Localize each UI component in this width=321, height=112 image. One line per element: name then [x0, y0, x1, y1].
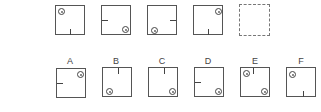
- sequence-panel-2: [101, 5, 131, 35]
- option-label-f: F: [286, 56, 316, 66]
- option-f[interactable]: [286, 67, 316, 97]
- option-e[interactable]: [240, 67, 270, 97]
- circle-icon: [122, 26, 129, 33]
- circle-icon: [58, 8, 65, 15]
- tick-mark: [57, 83, 63, 84]
- option-c[interactable]: [148, 67, 178, 97]
- tick-mark: [208, 29, 209, 35]
- circle-icon: [289, 71, 296, 78]
- circle-icon: [169, 88, 176, 95]
- circle-icon: [151, 27, 158, 34]
- circle-icon: [243, 70, 250, 77]
- circle-icon: [215, 8, 222, 15]
- tick-mark: [164, 68, 165, 74]
- sequence-panel-1: [55, 5, 85, 35]
- circle-icon: [261, 88, 268, 95]
- option-b[interactable]: [102, 67, 132, 97]
- circle-icon: [106, 88, 113, 95]
- tick-mark: [253, 68, 254, 74]
- circle-icon: [77, 71, 84, 78]
- tick-mark: [102, 20, 108, 21]
- option-a[interactable]: [56, 68, 86, 98]
- sequence-panel-3: [147, 5, 177, 35]
- option-label-a: A: [55, 56, 85, 66]
- circle-icon: [215, 88, 222, 95]
- option-label-d: D: [193, 56, 223, 66]
- sequence-panel-4: [193, 5, 223, 35]
- option-label-b: B: [101, 56, 131, 66]
- option-label-e: E: [240, 56, 270, 66]
- tick-mark: [170, 20, 176, 21]
- missing-panel-placeholder: [239, 4, 270, 36]
- tick-mark: [303, 91, 304, 97]
- option-label-c: C: [147, 56, 177, 66]
- tick-mark: [70, 29, 71, 35]
- option-d[interactable]: [194, 67, 224, 97]
- tick-mark: [118, 68, 119, 74]
- tick-mark: [195, 82, 201, 83]
